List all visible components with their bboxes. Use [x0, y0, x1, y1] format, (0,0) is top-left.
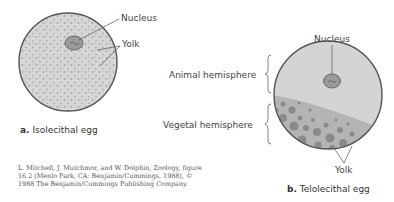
- telolecithal-egg: [270, 41, 385, 163]
- caption-a: a. Isolecithal egg: [20, 125, 98, 135]
- caption-b-letter: b.: [287, 184, 297, 194]
- label-nucleus-b: Nucleus: [314, 34, 350, 44]
- credit-line-1: L. Mitchell, J. Mutchmor, and W. Dolphin…: [18, 164, 258, 172]
- label-yolk-a: Yolk: [122, 39, 140, 49]
- caption-b: b. Telolecithal egg: [287, 184, 370, 194]
- label-animal-hemisphere: Animal hemisphere: [169, 70, 256, 80]
- isolecithal-egg: [19, 13, 120, 111]
- credit-line-2: 16.2 (Menlo Park, CA: Benjamin/Cummings,…: [18, 172, 258, 180]
- caption-a-letter: a.: [20, 125, 30, 135]
- label-yolk-b: Yolk: [335, 165, 353, 175]
- label-nucleus-a: Nucleus: [121, 13, 157, 23]
- source-credit: L. Mitchell, J. Mutchmor, and W. Dolphin…: [18, 164, 258, 188]
- credit-line-3: 1988 The Benjamin/Cummings Publishing Co…: [18, 180, 258, 188]
- caption-b-text: Telolecithal egg: [300, 184, 370, 194]
- label-vegetal-hemisphere: Vegetal hemisphere: [163, 120, 253, 130]
- brace-vegetal: [265, 104, 271, 144]
- caption-a-text: Isolecithal egg: [32, 125, 97, 135]
- brace-animal: [265, 55, 271, 93]
